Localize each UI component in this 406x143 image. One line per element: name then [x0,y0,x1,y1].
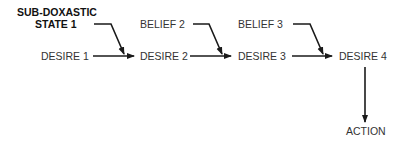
node-desire-3: DESIRE 3 [238,51,286,62]
node-desire-4: DESIRE 4 [339,51,387,62]
node-belief-2: BELIEF 2 [140,19,185,30]
node-sub-doxastic-line2: STATE 1 [35,19,77,30]
belief3-connector [293,24,323,54]
diagram-canvas: SUB-DOXASTIC STATE 1 DESIRE 1 BELIEF 2 D… [0,0,406,143]
node-action: ACTION [346,126,386,137]
node-desire-1: DESIRE 1 [41,51,89,62]
node-desire-2: DESIRE 2 [140,51,188,62]
belief2-connector [193,24,222,54]
sub-doxastic-connector [94,24,124,54]
node-belief-3: BELIEF 3 [238,19,283,30]
node-sub-doxastic-line1: SUB-DOXASTIC [17,7,97,18]
